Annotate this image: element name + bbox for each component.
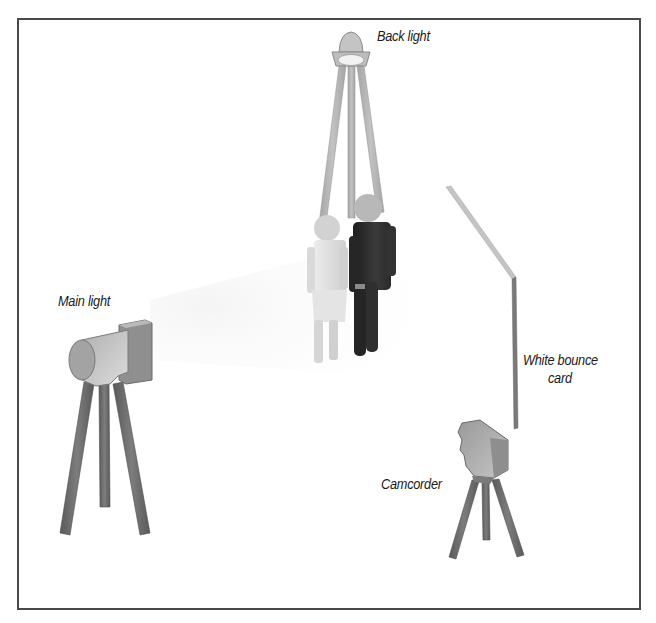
bounce-card-label-line2: card [548, 369, 572, 386]
camcorder [449, 420, 524, 559]
main-light-label: Main light [58, 292, 110, 309]
main-light-tripod-icon [60, 382, 150, 535]
bounce-card-label-line1: White bounce [523, 351, 598, 368]
bounce-card [446, 186, 518, 429]
light-beam [150, 230, 440, 380]
main-light-lamp-icon [69, 320, 152, 386]
lighting-diagram [0, 0, 656, 623]
main-light [60, 320, 152, 535]
back-light-lamp-icon [332, 32, 370, 66]
camcorder-tripod-icon [449, 479, 524, 559]
camcorder-body-icon [458, 420, 508, 484]
back-light-label: Back light [377, 27, 430, 44]
camcorder-label: Camcorder [381, 475, 442, 492]
